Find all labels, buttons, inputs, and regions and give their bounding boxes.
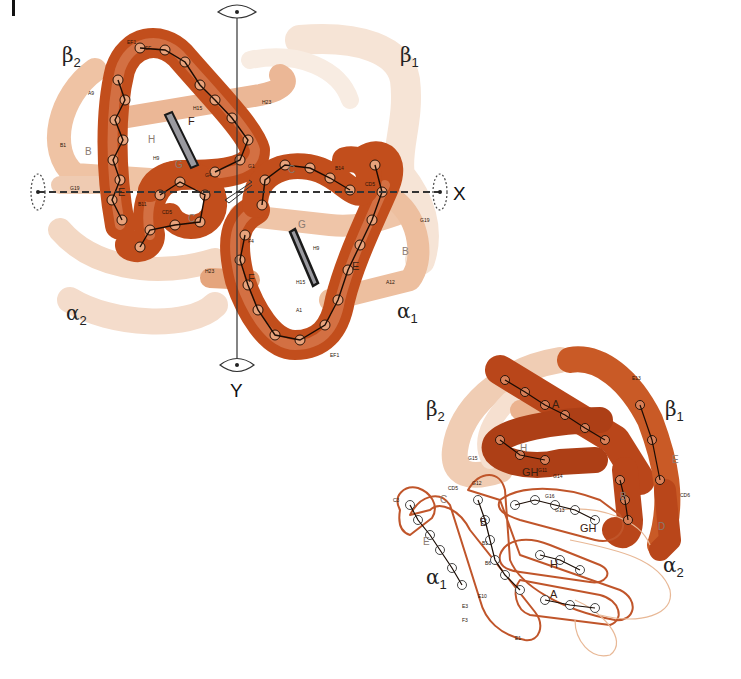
- helix-label: C: [440, 494, 447, 505]
- svg-text:H15: H15: [193, 105, 202, 111]
- svg-text:G12: G12: [472, 480, 482, 486]
- svg-text:G16: G16: [545, 493, 555, 499]
- helix-label: G: [298, 219, 306, 230]
- subunit-label-beta1: β1: [400, 43, 419, 70]
- helix-label: A: [550, 588, 558, 600]
- top-view: Y X F E B H G C E F G B C EF1 EF A9 B1: [31, 5, 466, 401]
- alpha2-faint-tube: [70, 300, 215, 321]
- svg-text:H23: H23: [262, 99, 271, 105]
- helix-label: B: [85, 146, 92, 157]
- svg-text:CD6: CD6: [680, 492, 690, 498]
- svg-text:G19: G19: [70, 185, 80, 191]
- svg-text:E3: E3: [462, 603, 468, 609]
- svg-text:EF1: EF1: [127, 39, 136, 45]
- svg-text:G15: G15: [468, 455, 478, 461]
- helix-label: G: [175, 159, 183, 170]
- alpha1-heme: [290, 229, 318, 286]
- helix-label: F: [248, 272, 255, 284]
- helix-label: B: [480, 516, 487, 528]
- helix-label: E: [423, 536, 430, 547]
- alpha2-D-tube: [660, 490, 670, 550]
- helix-label: F: [188, 115, 195, 127]
- helix-label: H: [550, 558, 558, 570]
- svg-text:EF1: EF1: [330, 352, 339, 358]
- svg-text:H23: H23: [205, 268, 214, 274]
- subunit-label-beta2: β2: [62, 43, 81, 70]
- svg-text:G4: G4: [205, 172, 212, 178]
- helix-label: GH: [522, 466, 539, 478]
- svg-text:B6: B6: [485, 560, 491, 566]
- svg-text:G11: G11: [538, 467, 547, 473]
- svg-text:F4: F4: [248, 238, 254, 244]
- svg-text:B14: B14: [335, 165, 344, 171]
- helix-label: GH: [580, 522, 597, 534]
- svg-text:E10: E10: [478, 593, 487, 599]
- svg-text:H9: H9: [313, 245, 320, 251]
- svg-text:H9: H9: [153, 155, 160, 161]
- alpha1-C-outline: [398, 487, 435, 535]
- helix-label: H: [520, 443, 527, 454]
- helix-label: E: [118, 186, 125, 198]
- helix-label: H: [148, 134, 155, 145]
- x-axis-label: X: [453, 183, 466, 204]
- svg-text:CD5: CD5: [448, 485, 458, 491]
- svg-text:A1: A1: [296, 307, 302, 313]
- helix-label: A: [552, 398, 560, 410]
- svg-text:A9: A9: [88, 90, 94, 96]
- svg-text:B1: B1: [60, 142, 66, 148]
- svg-text:E1: E1: [515, 635, 521, 641]
- svg-text:C3: C3: [393, 497, 400, 503]
- helix-label: E: [672, 454, 679, 465]
- svg-text:CD5: CD5: [365, 181, 375, 187]
- panel-mark-bar: [12, 0, 15, 16]
- svg-text:H15: H15: [296, 279, 305, 285]
- svg-text:G19: G19: [420, 217, 430, 223]
- bottom-view: A GH E B H C E B GH H A D G15 G12 G11 G1…: [393, 359, 690, 655]
- svg-text:G13: G13: [555, 507, 565, 513]
- helix-label: E: [352, 260, 359, 272]
- helix-label: B: [402, 246, 409, 257]
- helix-label: B: [620, 491, 627, 502]
- subunit-label-beta2: β2: [426, 397, 445, 424]
- svg-text:B11: B11: [138, 201, 147, 207]
- helix-label: C: [288, 164, 295, 175]
- svg-text:G14: G14: [553, 473, 563, 479]
- svg-text:CD5: CD5: [162, 209, 172, 215]
- svg-text:B1: B1: [482, 540, 488, 546]
- hemoglobin-subunit-diagram: Y X F E B H G C E F G B C EF1 EF A9 B1: [0, 0, 741, 679]
- svg-text:EF: EF: [145, 45, 151, 51]
- y-axis-label: Y: [230, 380, 243, 401]
- alpha-outline-tubes: [398, 475, 633, 640]
- svg-text:G1: G1: [248, 163, 255, 169]
- subunit-label-beta1: β1: [665, 397, 684, 424]
- helix-label: C: [188, 213, 195, 224]
- helix-label: D: [658, 521, 665, 532]
- svg-text:A12: A12: [386, 279, 395, 285]
- subunit-label-alpha1: α1: [397, 299, 418, 326]
- subunit-label-alpha1: α1: [426, 565, 447, 592]
- svg-text:F3: F3: [462, 617, 468, 623]
- subunit-label-alpha2: α2: [663, 553, 684, 580]
- svg-text:E13: E13: [632, 375, 641, 381]
